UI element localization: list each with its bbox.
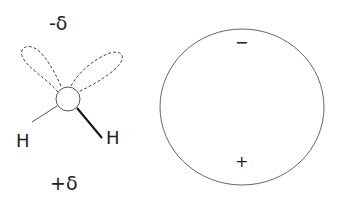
hydrogen-label-left: H [16, 130, 30, 151]
dipole-positive-sign: + [235, 152, 248, 171]
partial-charge-positive-label: +δ [50, 172, 78, 194]
dipole-negative-sign: − [235, 33, 248, 52]
partial-charge-negative-label: -δ [49, 12, 67, 34]
lone-pair-lobe-right [71, 52, 122, 92]
oxygen-atom [56, 87, 80, 111]
lone-pair-lobe-left [22, 47, 62, 92]
hydrogen-label-right: H [106, 127, 120, 148]
bond-left [32, 106, 57, 122]
diagram-canvas: -δ H H +δ − + [0, 0, 339, 197]
bond-right [77, 108, 102, 138]
